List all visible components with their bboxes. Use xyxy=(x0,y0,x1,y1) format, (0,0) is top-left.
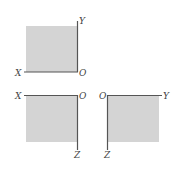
side-view-origin-label: O xyxy=(99,91,107,101)
side-view-z-label: Z xyxy=(103,150,111,160)
front-view-origin-label: O xyxy=(79,91,87,101)
front-view-x-label: X xyxy=(14,91,22,101)
front-view-square xyxy=(26,96,77,142)
front-view: X O Z xyxy=(14,91,87,160)
three-view-projection-diagram: Y X O X O Z O Y Z xyxy=(0,0,181,174)
top-view-x-label: X xyxy=(14,68,22,78)
side-view-y-label: Y xyxy=(163,91,170,101)
top-view-origin-label: O xyxy=(79,68,87,78)
top-view-square xyxy=(26,26,77,72)
side-view-square xyxy=(108,96,159,142)
front-view-z-label: Z xyxy=(73,150,81,160)
side-view: O Y Z xyxy=(99,91,170,160)
top-view-y-label: Y xyxy=(79,16,86,26)
top-view: Y X O xyxy=(14,16,87,78)
